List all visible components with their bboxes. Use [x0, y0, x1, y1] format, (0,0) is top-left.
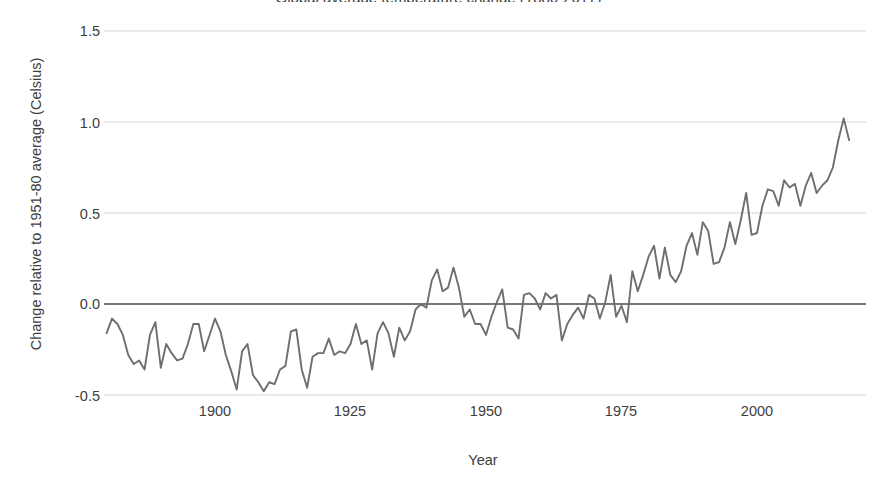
y-tick-label-1-0: 1.0 [56, 116, 100, 131]
x-tick-label-1950: 1950 [446, 404, 526, 419]
x-tick-label-1975: 1975 [581, 404, 661, 419]
y-axis-title: Change relative to 1951-80 average (Cels… [28, 4, 44, 404]
y-tick-label-minus-0-5: -0.5 [50, 389, 100, 404]
y-tick-label-0-5: 0.5 [56, 207, 100, 222]
data-series-line [107, 118, 850, 391]
x-tick-label-1900: 1900 [175, 404, 255, 419]
plot-area [104, 14, 866, 400]
gridlines [104, 31, 866, 395]
x-tick-label-1925: 1925 [310, 404, 390, 419]
y-tick-label-0-0: 0.0 [56, 297, 100, 312]
chart-figure: Global average temperature change (1880-… [0, 0, 877, 490]
temperature-anomaly-line-chart [104, 14, 866, 400]
chart-title: Global average temperature change (1880-… [0, 0, 877, 2]
x-tick-label-2000: 2000 [717, 404, 797, 419]
x-axis-title: Year [0, 452, 877, 468]
y-tick-label-1-5: 1.5 [56, 24, 100, 39]
